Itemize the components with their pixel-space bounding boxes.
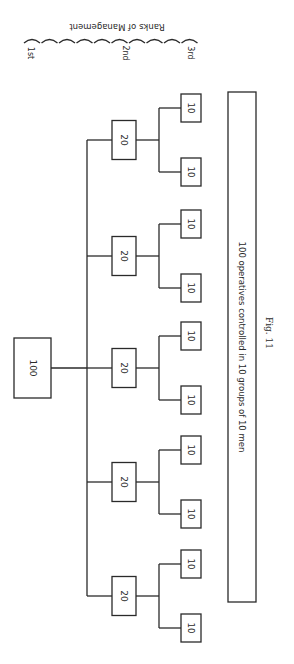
rank-bracket [42,40,58,44]
rank-bracket [24,40,40,44]
foreman-label: 10 [186,283,196,294]
figure-label: Fig. 11 [264,317,274,349]
org-chart-diagram: 100201010201010201010201010201010100 ope… [0,0,294,664]
foreman-label: 10 [186,559,196,570]
rank-bracket [129,40,145,44]
foreman-label: 10 [186,167,196,178]
rank-label: 2nd [121,45,130,60]
group-manager-label: 20 [119,590,129,602]
foreman-label: 10 [186,103,196,114]
foreman-label: 10 [186,331,196,342]
foreman-label: 10 [186,623,196,634]
group-manager-label: 20 [119,134,129,146]
rank-label: 3rd [186,46,195,59]
rank-bracket [77,40,93,44]
group-manager-label: 20 [119,476,129,488]
group-manager-label: 20 [119,362,129,374]
foreman-label: 10 [186,219,196,230]
rank-bracket [147,40,163,44]
foreman-label: 10 [186,395,196,406]
rank-bracket [112,40,128,44]
ranks-title: Ranks of Management [69,22,165,32]
rank-bracket [94,40,110,44]
rank-bracket [164,40,180,44]
group-manager-label: 20 [119,250,129,262]
foreman-label: 10 [186,445,196,456]
top-manager-label: 100 [28,359,38,376]
foreman-label: 10 [186,509,196,520]
rank-bracket [59,40,75,44]
rank-label: 1st [26,47,35,59]
rank-bracket [182,40,198,44]
operatives-caption: 100 operatives controlled in 10 groups o… [237,242,247,453]
